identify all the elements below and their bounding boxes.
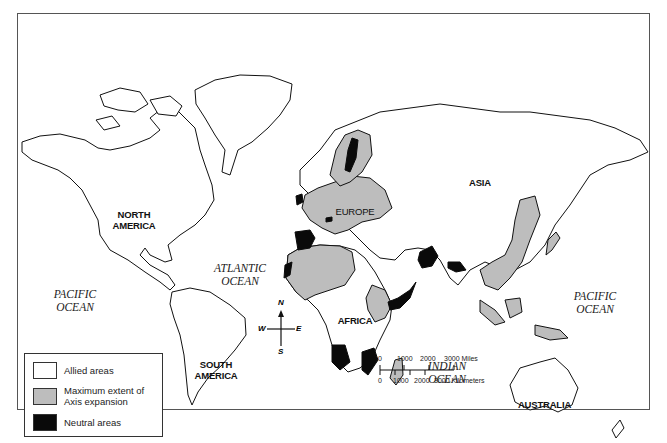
label-north-america: NORTH AMERICA bbox=[104, 209, 164, 231]
scale-mi-0: 0 bbox=[378, 355, 382, 362]
ocean-line: ATLANTIC bbox=[205, 262, 275, 275]
compass-s: S bbox=[278, 347, 283, 356]
label-australia: AUSTRALIA bbox=[512, 399, 577, 410]
legend-axis-line1: Maximum extent of bbox=[64, 385, 144, 396]
compass-rose: N S W E bbox=[255, 300, 315, 360]
scale-bar: 0 1000 2000 3000 Miles 0 1000 2000 3000 … bbox=[378, 355, 518, 391]
south-america-landmass bbox=[170, 288, 246, 405]
scale-km-2000: 2000 bbox=[414, 377, 430, 384]
label-pacific-ocean-west: PACIFICOCEAN bbox=[40, 288, 110, 314]
ocean-line: OCEAN bbox=[40, 301, 110, 314]
axis-swatch bbox=[33, 388, 57, 405]
scale-mi-3000: 3000 Miles bbox=[444, 355, 478, 362]
neutral-ireland bbox=[296, 194, 303, 205]
scale-km-1000: 1000 bbox=[393, 377, 409, 384]
scale-km-3000: 3000 Kilometers bbox=[434, 377, 485, 384]
neutral-switzerland bbox=[326, 217, 332, 222]
neutral-arabia bbox=[388, 282, 416, 310]
compass-e: E bbox=[296, 324, 301, 333]
compass-w: W bbox=[258, 324, 266, 333]
ocean-line: OCEAN bbox=[205, 275, 275, 288]
north-america-landmass bbox=[22, 108, 214, 290]
label-pacific-ocean-east: PACIFICOCEAN bbox=[560, 290, 630, 316]
ocean-line: PACIFIC bbox=[40, 288, 110, 301]
axis-indonesia bbox=[480, 298, 568, 340]
legend-label-allied: Allied areas bbox=[64, 365, 114, 376]
allied-swatch bbox=[33, 362, 57, 379]
legend-item-axis: Maximum extent ofAxis expansion bbox=[33, 385, 144, 407]
label-asia: ASIA bbox=[460, 177, 500, 188]
legend-item-neutral: Neutral areas bbox=[33, 414, 121, 431]
ocean-line: OCEAN bbox=[560, 303, 630, 316]
ocean-line: PACIFIC bbox=[560, 290, 630, 303]
neutral-mozambique bbox=[362, 348, 378, 375]
legend-axis-line2: Axis expansion bbox=[64, 396, 128, 407]
scale-mi-2000: 2000 bbox=[420, 355, 436, 362]
label-atlantic-ocean: ATLANTICOCEAN bbox=[205, 262, 275, 288]
legend-label-neutral: Neutral areas bbox=[64, 417, 121, 428]
scale-km-0: 0 bbox=[378, 377, 382, 384]
legend-item-allied: Allied areas bbox=[33, 362, 114, 379]
map-legend: Allied areas Maximum extent ofAxis expan… bbox=[24, 353, 163, 437]
legend-label-axis: Maximum extent ofAxis expansion bbox=[64, 385, 144, 407]
neutral-swatch bbox=[33, 414, 57, 431]
scale-ruler bbox=[378, 364, 458, 376]
compass-n: N bbox=[278, 298, 284, 307]
greenland-landmass bbox=[195, 75, 292, 175]
label-europe: EUROPE bbox=[330, 206, 380, 217]
label-south-america: SOUTH AMERICA bbox=[186, 359, 246, 381]
scale-mi-1000: 1000 bbox=[397, 355, 413, 362]
label-africa: AFRICA bbox=[330, 315, 380, 326]
new-zealand bbox=[612, 420, 624, 438]
